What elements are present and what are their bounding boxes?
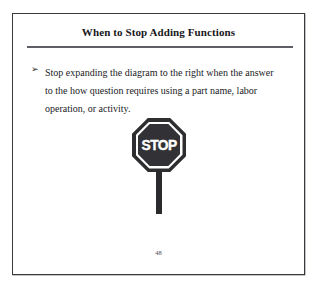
page-number: 48 [13, 249, 304, 256]
stop-sign-icon: STOP [132, 118, 186, 172]
page-title: When to Stop Adding Functions [13, 26, 304, 38]
stop-sign-post [156, 170, 162, 214]
stop-sign-label: STOP [141, 137, 176, 152]
slide-page: When to Stop Adding Functions ➢ Stop exp… [12, 13, 305, 275]
title-divider [27, 46, 293, 48]
stop-sign-figure: STOP [120, 118, 198, 218]
list-item: ➢ Stop expanding the diagram to the righ… [31, 62, 277, 116]
bullet-list: ➢ Stop expanding the diagram to the righ… [31, 62, 277, 116]
arrow-bullet-icon: ➢ [31, 63, 39, 76]
bullet-text: Stop expanding the diagram to the right … [45, 67, 274, 114]
stop-sign-face: STOP [138, 124, 181, 167]
